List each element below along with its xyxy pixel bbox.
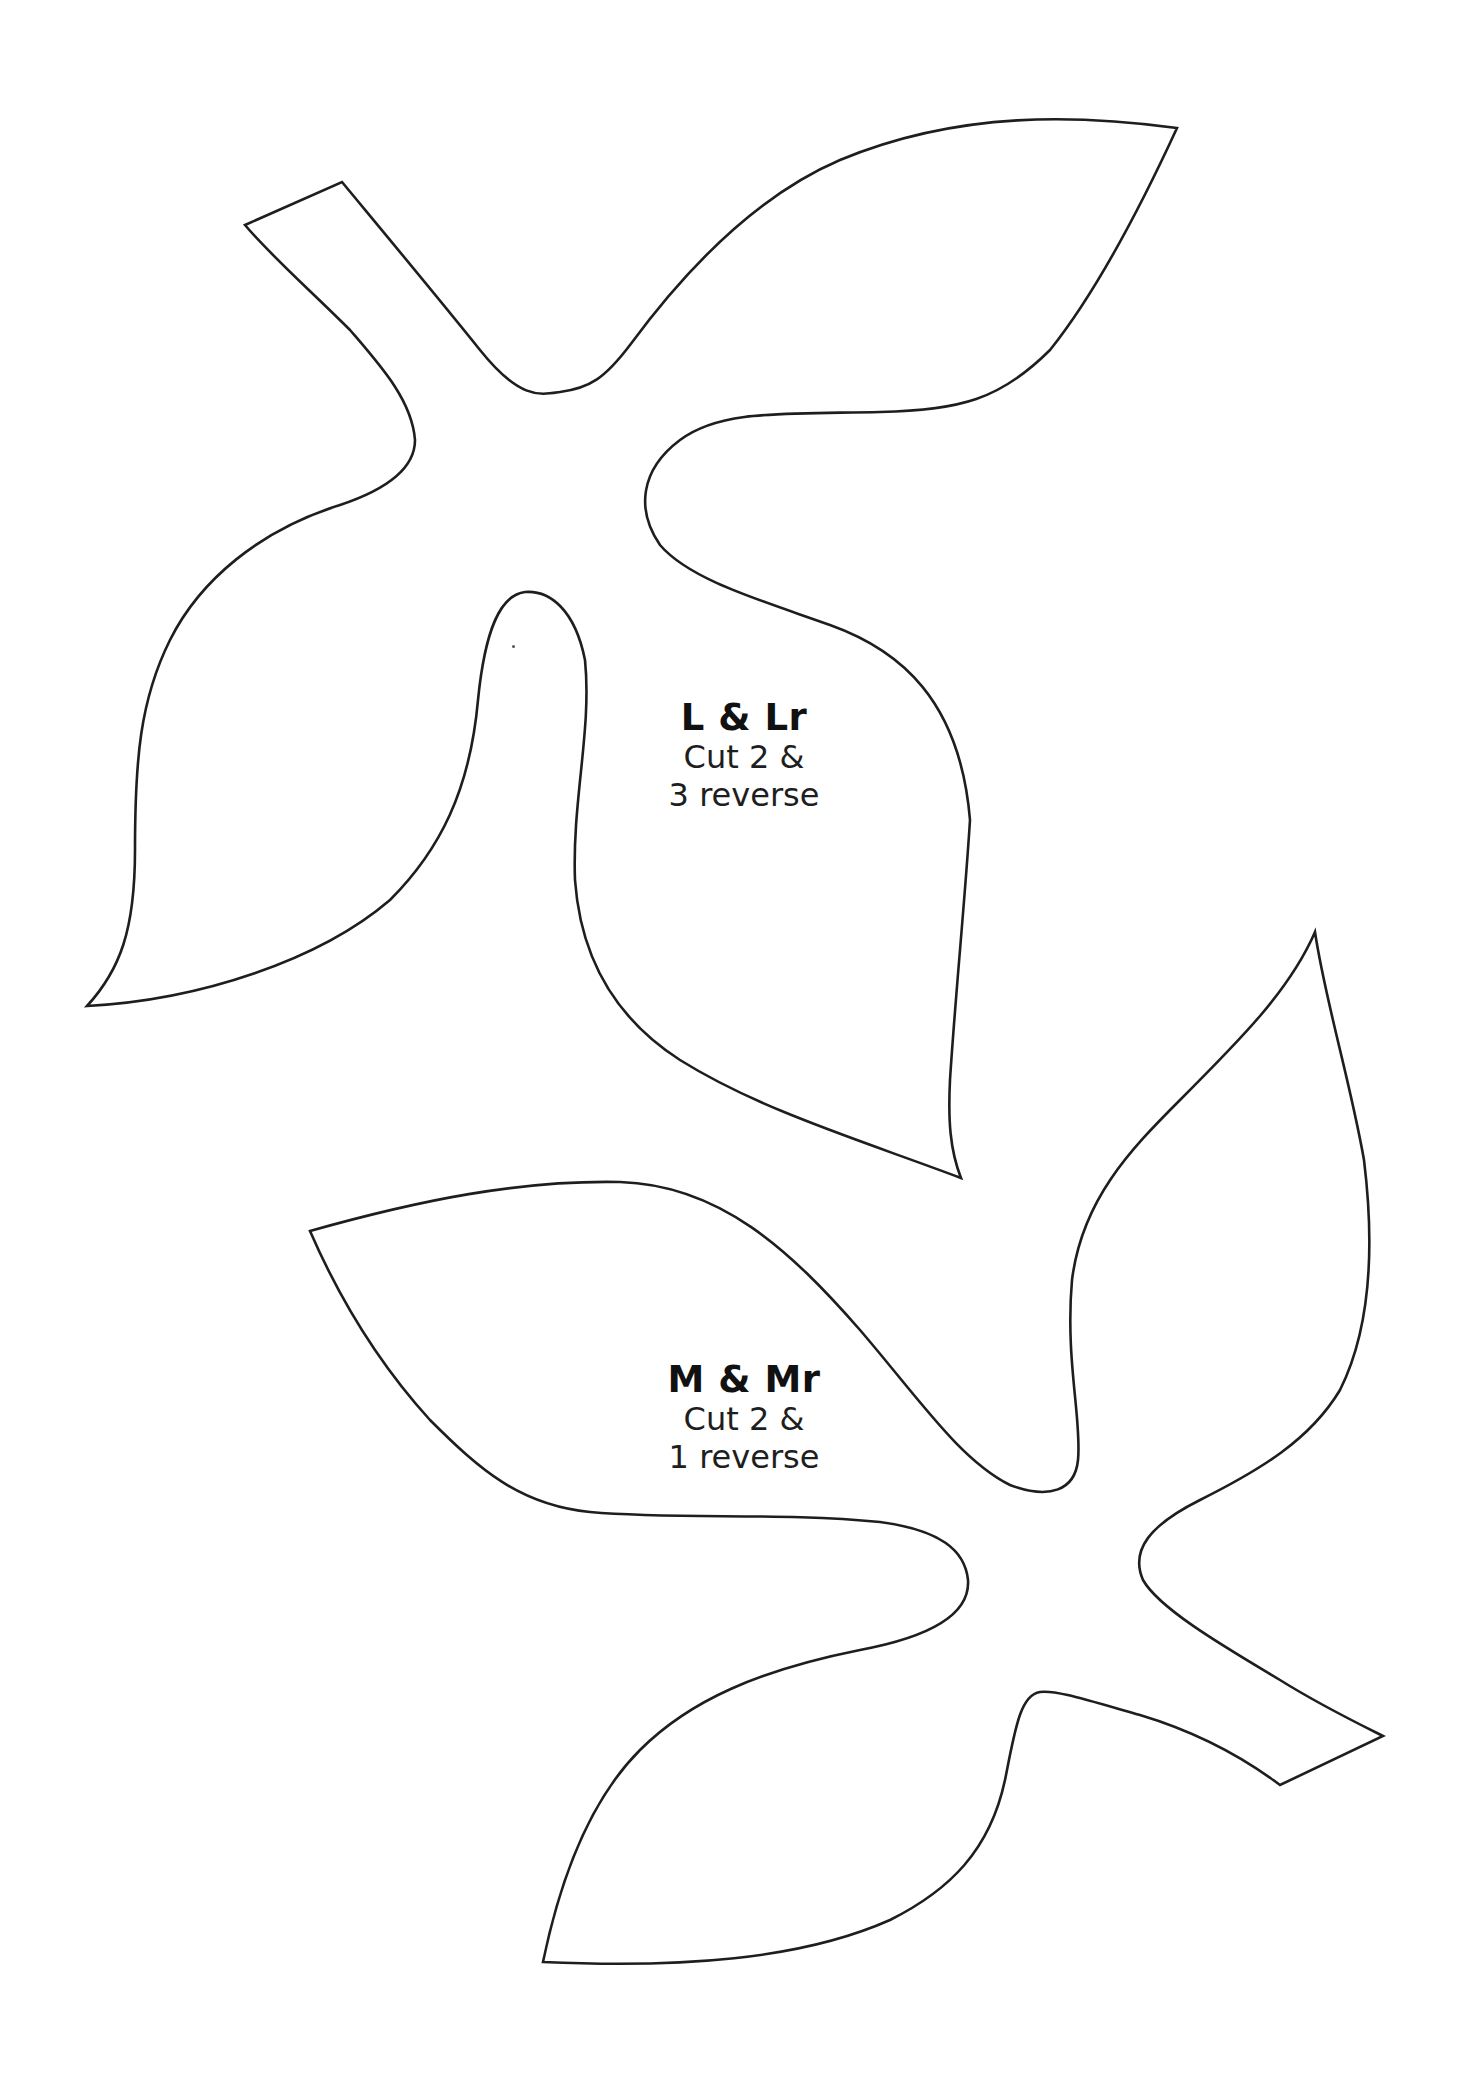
cut-instruction-line-1: Cut 2 & <box>624 739 864 776</box>
piece-title: M & Mr <box>624 1358 864 1401</box>
piece-label-l: L & Lr Cut 2 & 3 reverse <box>624 696 864 814</box>
template-page: L & Lr Cut 2 & 3 reverse M & Mr Cut 2 & … <box>0 0 1472 2077</box>
leaf-outline-l <box>87 119 1177 1178</box>
piece-label-m: M & Mr Cut 2 & 1 reverse <box>624 1358 864 1476</box>
print-speck <box>512 645 515 648</box>
template-outlines <box>0 0 1472 2077</box>
cut-instruction-line-2: 3 reverse <box>624 777 864 814</box>
piece-title: L & Lr <box>624 696 864 739</box>
cut-instruction-line-1: Cut 2 & <box>624 1401 864 1438</box>
cut-instruction-line-2: 1 reverse <box>624 1439 864 1476</box>
